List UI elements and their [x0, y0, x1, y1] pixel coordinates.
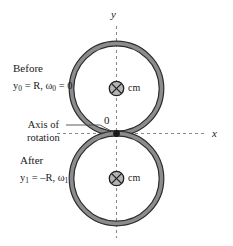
axis-of-rotation-line-1: Axis of: [27, 118, 60, 131]
cm-marker-before: [109, 81, 123, 95]
axis-of-rotation-line-2: rotation: [27, 131, 60, 144]
state-equation-before: y0 = R, ω0 = 0: [13, 80, 73, 94]
cm-label-after: cm: [128, 172, 140, 184]
state-label-before: Before: [13, 62, 43, 75]
state-label-after: After: [20, 154, 43, 167]
cm-label-before: cm: [128, 82, 140, 94]
state-equation-after: y1 = –R, ω1: [20, 172, 68, 186]
x-axis-label: x: [212, 127, 217, 140]
contact-point-marker: [113, 130, 120, 137]
cm-marker-after: [109, 171, 123, 185]
y-axis-label: y: [111, 8, 116, 21]
axis-of-rotation-caption: Axis of rotation: [27, 118, 60, 144]
rolling-hoop-figure: y x 0 Before y0 = R, ω0 = 0 After y1 = –…: [0, 0, 233, 246]
origin-label: 0: [104, 114, 110, 127]
